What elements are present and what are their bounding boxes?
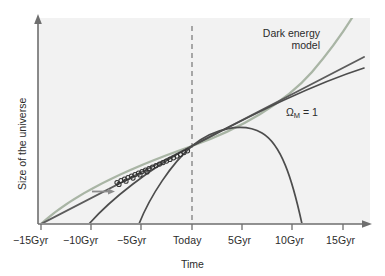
x-tick-label-today: Today — [173, 234, 202, 246]
dark-energy-model-label-line1: Dark energy — [236, 28, 320, 40]
plot-background — [38, 18, 370, 224]
omega-value: = 1 — [303, 106, 318, 118]
omega-symbol: Ω — [286, 106, 294, 118]
x-tick-label-10gyr: 10Gyr — [275, 234, 304, 246]
omega-m-equals-one-label: ΩM = 1 — [286, 106, 318, 120]
x-tick-label-5gyr: 5Gyr — [228, 234, 251, 246]
x-axis-ticks — [41, 224, 343, 230]
x-tick-label-15gyr: 15Gyr — [326, 234, 355, 246]
x-axis-title: Time — [181, 258, 204, 270]
omega-subscript-m: M — [294, 111, 300, 120]
y-axis-title: Size of the universe — [16, 98, 28, 190]
x-tick-label-minus-10gyr: −10Gyr — [63, 234, 98, 246]
dark-energy-model-label-line2: model — [236, 40, 320, 52]
expansion-of-universe-figure: Size of the universe Time −15Gyr −10Gyr … — [0, 0, 385, 276]
x-tick-label-minus-5gyr: −5Gyr — [117, 234, 146, 246]
dark-energy-model-label: Dark energy model — [236, 28, 320, 52]
x-tick-label-minus-15gyr: −15Gyr — [13, 234, 48, 246]
